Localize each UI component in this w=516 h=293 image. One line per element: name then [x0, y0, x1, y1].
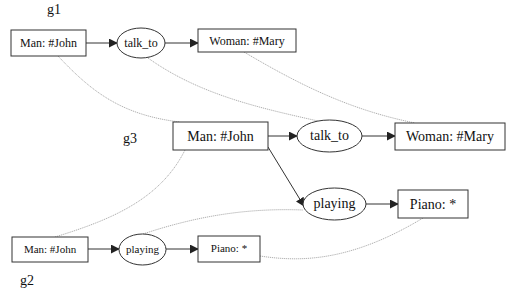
- g3-concept-piano-label: Piano: *: [410, 197, 456, 212]
- graph-label-g3: g3: [123, 131, 137, 146]
- g2-concept-piano-label: Piano: *: [211, 242, 247, 254]
- g2-concept-man-label: Man: #John: [24, 243, 77, 255]
- g3-concept-woman-label: Woman: #Mary: [406, 129, 494, 144]
- mapping-lines: [55, 52, 423, 259]
- mapping-g1-woman-to-g3-woman: [244, 52, 415, 123]
- mapping-g1-talkto-to-g3-talkto: [148, 58, 318, 121]
- edge-g3-man-playing: [268, 147, 304, 206]
- g2-relation-playing-label: playing: [126, 243, 159, 255]
- g3-relation-talkto-label: talk_to: [310, 128, 349, 143]
- g3-concept-man-label: Man: #John: [187, 129, 254, 144]
- g3-relation-playing-label: playing: [314, 196, 356, 211]
- graph-label-g2: g2: [20, 273, 34, 288]
- mapping-g2-man-to-g3-man: [55, 150, 185, 237]
- mapping-g2-playing-to-g3-playing: [143, 210, 303, 234]
- conceptual-graph-diagram: g1 g3 g2 Man: #John talk_to Woman: #Mary…: [0, 0, 516, 293]
- mapping-g1-man-to-g3-man: [58, 56, 180, 122]
- graph-g2: Man: #John playing Piano: *: [12, 234, 260, 265]
- g1-concept-man-label: Man: #John: [20, 36, 77, 50]
- graph-label-g1: g1: [47, 2, 61, 17]
- g1-relation-talkto-label: talk_to: [124, 36, 157, 50]
- mapping-g2-piano-to-g3-piano: [260, 218, 423, 259]
- graph-g1: Man: #John talk_to Woman: #Mary: [11, 28, 296, 58]
- graph-g3: Man: #John talk_to Woman: #Mary playing …: [173, 120, 505, 220]
- g1-concept-woman-label: Woman: #Mary: [209, 34, 284, 48]
